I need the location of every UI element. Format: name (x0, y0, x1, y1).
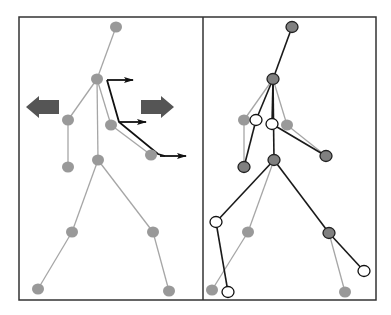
joint-neck (91, 74, 103, 85)
joint-r_knee (323, 228, 335, 239)
joint-g_l_shoulder (238, 115, 250, 126)
joint-w_l_knee (210, 217, 222, 228)
joint-r_hand (320, 151, 332, 162)
deformed-bone (273, 27, 292, 79)
joint-w_r_elbow (266, 119, 278, 130)
skeleton-deformation-diagram (0, 0, 391, 315)
joint-l_knee (66, 227, 78, 238)
original-bone (273, 79, 287, 125)
moved-joints (210, 115, 370, 298)
joint-w_l_shoulder (250, 115, 262, 126)
joint-l_shoulder (62, 115, 74, 126)
original-bone (212, 232, 248, 290)
joint-head (286, 22, 298, 33)
deformed-bones (216, 27, 364, 292)
joint-l_hand (62, 162, 74, 173)
original-bone (248, 160, 274, 232)
joint-w_l_foot (222, 287, 234, 298)
right-panel-deformed-skeleton (206, 22, 370, 298)
joint-r_hand (145, 150, 157, 161)
bone (111, 125, 151, 155)
joint-r_elbow (105, 120, 117, 131)
bone (68, 79, 97, 120)
deformed-bone (244, 120, 256, 167)
joint-head (110, 22, 122, 33)
right-arrow-icon (141, 96, 174, 118)
joint-g_r_elbow (281, 120, 293, 131)
bone (38, 232, 72, 289)
motion-path (107, 80, 186, 156)
joint-w_r_foot (358, 266, 370, 277)
joint-l_hand (238, 162, 250, 173)
bone (97, 27, 116, 79)
joint-hip (268, 155, 280, 166)
bone (97, 79, 98, 160)
original-bone (287, 125, 326, 156)
original-joints (206, 115, 351, 298)
bone (153, 232, 169, 291)
joint-hip (92, 155, 104, 166)
bone (98, 160, 153, 232)
left-panel-reference-skeleton (26, 22, 186, 297)
motion-path-line (107, 80, 165, 156)
direction-arrows (26, 96, 174, 118)
joint-r_knee (147, 227, 159, 238)
joint-l_foot (32, 284, 44, 295)
joint-neck (267, 74, 279, 85)
joint-g_r_foot (339, 287, 351, 298)
joint-g_l_knee (242, 227, 254, 238)
deformed-bone (272, 124, 326, 156)
left-arrow-icon (26, 96, 59, 118)
original-bones (212, 79, 345, 292)
deformed-bone (274, 160, 329, 233)
joint-r_foot (163, 286, 175, 297)
joint-g_l_foot (206, 285, 218, 296)
bone (72, 160, 98, 232)
